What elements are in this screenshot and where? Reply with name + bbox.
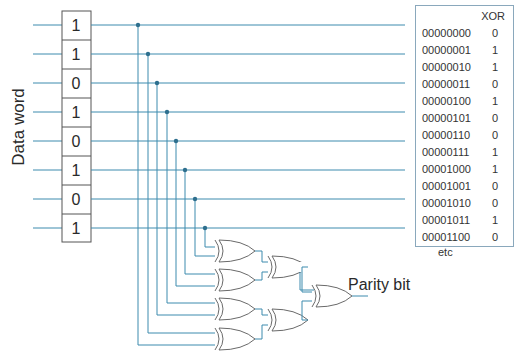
xor-truth-table: XOR 000000000 000000011 000000101 000000… xyxy=(415,5,514,247)
xor-gate-final xyxy=(312,285,352,307)
table-row: 000000011 xyxy=(422,44,510,58)
table-row: 000001001 xyxy=(422,95,510,109)
table-row: 000010111 xyxy=(422,214,510,228)
table-row: 000000101 xyxy=(422,61,510,75)
table-row: 000001100 xyxy=(422,129,510,143)
table-row: 000000000 xyxy=(422,27,510,41)
table-row: 000011000 xyxy=(422,231,510,245)
table-row: 000010010 xyxy=(422,180,510,194)
table-row: 000000110 xyxy=(422,78,510,92)
table-header-xor: XOR xyxy=(481,10,505,22)
table-row: 000010001 xyxy=(422,163,510,177)
parity-bit-label: Parity bit xyxy=(348,276,410,294)
table-row: 000001111 xyxy=(422,146,510,160)
table-row: 000010100 xyxy=(422,197,510,211)
table-row: 000001010 xyxy=(422,112,510,126)
table-footer-etc: etc xyxy=(438,246,453,258)
